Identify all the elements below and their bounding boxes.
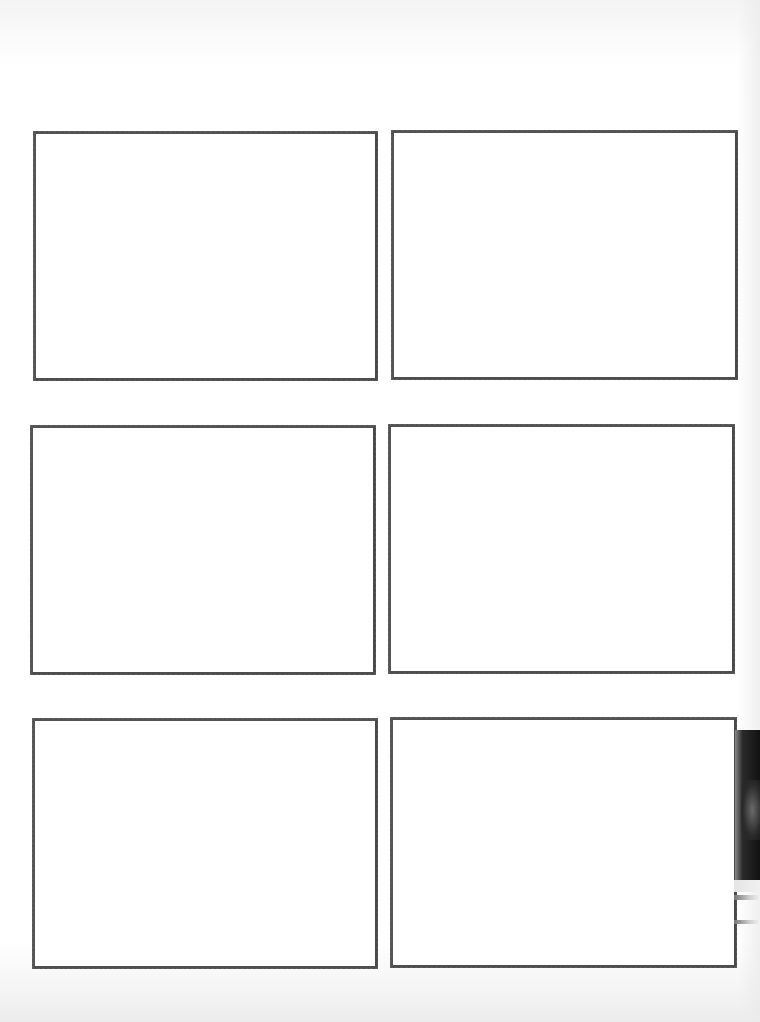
storyboard-panel-6 (390, 717, 737, 968)
adjacent-page-strip (734, 920, 760, 924)
storyboard-panel-2 (391, 130, 738, 380)
storyboard-panel-1 (33, 131, 378, 381)
storyboard-panel-4 (388, 424, 735, 674)
reverse-side-bleed-through (0, 0, 760, 60)
adjacent-page-strip (734, 880, 760, 892)
storyboard-panel-3 (30, 425, 376, 675)
adjacent-page-strip (734, 895, 760, 900)
scanned-page (0, 0, 760, 1022)
storyboard-panel-5 (32, 718, 378, 969)
adjacent-photo-edge (735, 730, 760, 880)
